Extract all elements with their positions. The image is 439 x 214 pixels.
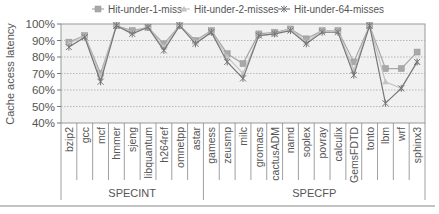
y-tick-label: 70% (32, 68, 55, 80)
category-label: gcc (79, 127, 91, 143)
y-tick-label: 60% (32, 84, 55, 96)
category-label: libquantum (142, 127, 154, 179)
category-label: GemsFDTD (348, 127, 360, 183)
x-axis: bzip2gccmcfhmmersjenglibquantumh264refom… (61, 123, 425, 200)
legend-label: Hit-under-64-misses (294, 4, 384, 15)
category-label: astar (190, 126, 202, 150)
y-tick-label: 80% (32, 51, 55, 63)
legend-label: Hit-under-1-miss (108, 4, 182, 15)
square-marker (95, 6, 101, 12)
cache-latency-chart: Hit-under-1-missHit-under-2-missesHit-un… (0, 0, 439, 214)
legend: Hit-under-1-missHit-under-2-missesHit-un… (92, 4, 384, 15)
category-label: cactusADM (269, 127, 281, 181)
y-tick-label: 50% (32, 101, 55, 113)
y-axis: 40%50%60%70%80%90%100% (26, 18, 61, 129)
square-marker (398, 66, 404, 72)
y-axis-label: Cache acess latency (4, 23, 16, 125)
category-label: omnetpp (174, 127, 186, 168)
y-tick-label: 40% (32, 117, 55, 129)
category-label: gamess (205, 127, 217, 164)
category-label: mcf (95, 127, 107, 144)
category-label: lbm (379, 127, 391, 144)
category-label: namd (284, 127, 296, 153)
group-label: SPECFP (292, 187, 336, 199)
category-label: h264ref (158, 127, 170, 163)
square-marker (414, 49, 420, 55)
category-label: zeusmp (221, 127, 233, 164)
legend-label: Hit-under-2-misses (194, 4, 278, 15)
category-label: tonto (364, 127, 376, 151)
category-label: povray (316, 126, 328, 158)
y-tick-label: 100% (26, 18, 55, 30)
square-marker (382, 66, 388, 72)
category-label: milc (237, 127, 249, 146)
square-marker (240, 61, 246, 67)
category-label: sjeng (126, 127, 138, 152)
category-label: hmmer (110, 126, 122, 159)
group-label: SPECINT (108, 187, 156, 199)
category-label: sphinx3 (411, 127, 423, 163)
category-label: bzip2 (63, 127, 75, 152)
category-label: wrf (395, 127, 407, 142)
category-label: gromacs (253, 127, 265, 167)
y-tick-label: 90% (32, 35, 55, 47)
category-label: soplex (300, 126, 312, 157)
category-label: calculix (332, 126, 344, 161)
